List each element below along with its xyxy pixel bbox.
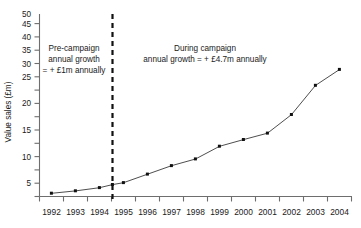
value-sales-line-chart: Value sales (£m) 5 10 15 20 [0, 0, 361, 228]
x-tick-label-2001: 2001 [258, 207, 277, 217]
y-tick-label-45: 45 [22, 20, 32, 29]
annotation-during-campaign: During campaign annual growth = + £4.7m … [143, 44, 267, 64]
x-tick-label-1998: 1998 [186, 207, 205, 217]
y-tick-label-30: 30 [22, 60, 32, 69]
y-tick-label-15: 15 [22, 126, 32, 135]
x-axis-ticks [40, 197, 352, 202]
y-axis-ticks: 5 10 15 20 25 30 35 40 45 50 [22, 10, 40, 197]
annotation-during-campaign-line-1: During campaign [174, 44, 236, 53]
series-value-sales [52, 70, 340, 194]
x-tick-label-1999: 1999 [210, 207, 229, 217]
x-tick-label-1993: 1993 [66, 207, 85, 217]
x-tick-label-1994: 1994 [90, 207, 109, 217]
y-tick-label-35: 35 [22, 46, 32, 55]
x-axis-labels: 1992 1993 1994 1995 1996 1997 1998 1999 … [42, 207, 349, 217]
x-tick-label-1995: 1995 [114, 207, 133, 217]
annotation-pre-campaign-line-1: Pre-campaign [49, 44, 100, 53]
y-tick-label-50: 50 [22, 10, 32, 19]
svg-text:Value sales (£m): Value sales (£m) [4, 81, 13, 142]
y-tick-label-5: 5 [26, 179, 31, 188]
y-tick-label-20: 20 [22, 99, 32, 108]
x-tick-label-1996: 1996 [138, 207, 157, 217]
y-tick-label-40: 40 [22, 33, 32, 42]
x-tick-label-2000: 2000 [234, 207, 253, 217]
y-tick-label-25: 25 [22, 73, 32, 82]
annotation-during-campaign-line-2: annual growth = + £4.7m annually [143, 55, 267, 64]
series-markers [50, 68, 341, 195]
y-tick-label-10: 10 [22, 153, 32, 162]
x-tick-label-2004: 2004 [330, 207, 349, 217]
x-tick-label-2002: 2002 [282, 207, 301, 217]
annotation-pre-campaign: Pre-campaign annual growth = + £1m annua… [43, 44, 107, 75]
x-tick-label-1992: 1992 [42, 207, 61, 217]
y-axis-title: Value sales (£m) [4, 81, 13, 142]
axis-lines [40, 14, 353, 197]
x-tick-label-2003: 2003 [306, 207, 325, 217]
x-tick-label-1997: 1997 [162, 207, 181, 217]
annotation-pre-campaign-line-2: annual growth [48, 55, 100, 64]
annotation-pre-campaign-line-3: = + £1m annually [43, 66, 107, 75]
